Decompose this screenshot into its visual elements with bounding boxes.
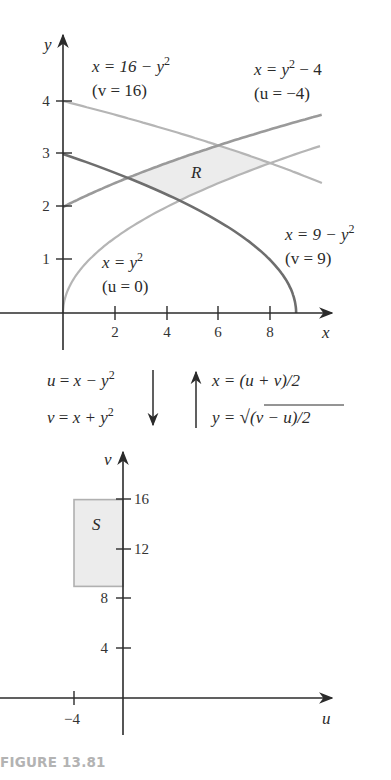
figure-13-81: 2 4 6 8 x 1 2 3 4 y R x = 16 − y2 (v = 1…	[0, 0, 391, 780]
label-u0-equation: x = y2	[101, 250, 143, 272]
label-u-4-annotation: (u = −4)	[254, 84, 310, 103]
x-tick-label: 2	[111, 324, 119, 340]
figure-caption: FIGURE 13.81	[0, 754, 106, 770]
region-s-label: S	[92, 515, 101, 534]
y-tick-label: 3	[42, 145, 50, 161]
label-u0-annotation: (u = 0)	[102, 277, 148, 296]
label-v9-annotation: (v = 9)	[285, 249, 331, 268]
xy-plot: 2 4 6 8 x 1 2 3 4 y R x = 16 − y2 (v = 1…	[0, 35, 355, 350]
u-axis-label: u	[322, 709, 331, 728]
v-tick-label: 12	[134, 541, 149, 557]
x-tick-label: 4	[163, 324, 171, 340]
inverse-x-equation: x = (u + v)/2	[211, 371, 301, 390]
y-tick-label: 1	[42, 251, 50, 267]
label-v16-annotation: (v = 16)	[92, 81, 147, 100]
v-tick-label: 4	[101, 640, 109, 656]
uv-plot: 4 8 12 16 v −4 u S	[0, 450, 332, 735]
x-axis-label: x	[321, 323, 330, 342]
region-s	[74, 500, 123, 587]
region-r-label: R	[190, 163, 202, 182]
forward-u-equation: u = x − y2	[47, 368, 115, 390]
y-axis-label: y	[42, 35, 52, 54]
x-tick-label: 8	[266, 324, 274, 340]
v-tick-label: 16	[134, 491, 150, 507]
v-tick-label: 8	[101, 590, 109, 606]
label-v9-equation: x = 9 − y2	[284, 222, 355, 244]
y-ticks	[56, 101, 72, 259]
v-axis-label: v	[104, 450, 112, 469]
inverse-y-equation: y = √(v − u)/2	[210, 406, 311, 427]
y-tick-label: 4	[42, 93, 50, 109]
label-v16-equation: x = 16 − y2	[91, 54, 170, 76]
y-tick-label: 2	[42, 198, 50, 214]
label-u-4-equation: x = y2 − 4	[253, 57, 322, 79]
transformation-equations: u = x − y2 v = x + y2 x = (u + v)/2 y = …	[47, 368, 344, 428]
forward-v-equation: v = x + y2	[47, 405, 114, 427]
u-tick-label: −4	[64, 711, 80, 727]
x-tick-label: 6	[214, 324, 222, 340]
